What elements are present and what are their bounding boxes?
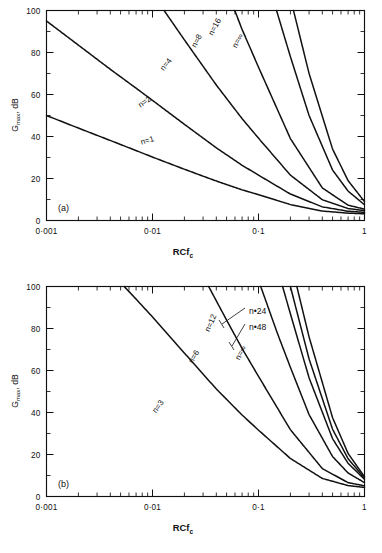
y-tick-label: 40 [31, 133, 41, 142]
chart-svg-a: 0·0010·010·11 020406080100 n=1n=2n=4n=8n… [0, 0, 382, 272]
curve-label-b-3: n=∞ [233, 344, 248, 362]
curve-group-b [124, 287, 364, 488]
curve-n-12 [261, 287, 365, 483]
panel-label-a: (a) [58, 203, 69, 213]
callout-tick-0 [219, 320, 224, 328]
x-tick-label: 0·01 [144, 503, 161, 512]
callout-label-0: n•24 [249, 306, 267, 316]
callout-leader-0 [222, 308, 245, 324]
y-axis-title-a: Gmax, dB [10, 98, 21, 132]
chart-panel-b: 0·0010·010·11 020406080100 n=3n=6n=12n=∞… [0, 276, 382, 548]
y-axis-ticks-a [47, 11, 365, 221]
x-tick-label: 1 [362, 503, 367, 512]
x-tick-label: 0·001 [36, 227, 58, 236]
curve-n-inf [294, 11, 365, 202]
x-axis-ticks-a [47, 11, 365, 221]
y-tick-label: 20 [31, 451, 41, 460]
y-axis-tick-labels-a: 020406080100 [26, 7, 41, 226]
y-tick-label: 40 [31, 409, 41, 418]
y-tick-label: 0 [36, 493, 41, 502]
curve-n-3 [124, 287, 364, 488]
curve-label-b-2: n=12 [203, 312, 219, 333]
y-tick-label: 60 [31, 91, 41, 100]
plot-frame-a [47, 11, 365, 221]
svg-text:RCfc: RCfc [173, 522, 194, 535]
y-tick-label: 60 [31, 367, 41, 376]
x-tick-label: 0·01 [144, 227, 161, 236]
curve-label-a-4: n=16 [207, 16, 224, 37]
curve-label-b-1: n=6 [186, 348, 201, 365]
x-tick-label: 0·001 [36, 503, 58, 512]
x-axis-title-b: RCfc [173, 522, 194, 535]
y-axis-ticks-b [47, 287, 365, 497]
curve-n-1 [47, 116, 365, 214]
y-axis-tick-labels-b: 020406080100 [26, 283, 41, 502]
x-tick-label: 0·1 [252, 227, 265, 236]
y-tick-label: 80 [31, 325, 41, 334]
curve-label-b-0: n=3 [150, 398, 166, 415]
curve-n-16 [277, 11, 365, 205]
curve-n-2 [47, 21, 365, 212]
svg-text:Gmax, dB: Gmax, dB [10, 98, 21, 132]
y-axis-title-b: Gmax, dB [10, 374, 21, 408]
curve-n-8 [235, 11, 365, 210]
x-axis-tick-labels-a: 0·0010·010·11 [36, 227, 368, 236]
curve-label-a-1: n=2 [136, 94, 153, 109]
chart-svg-b: 0·0010·010·11 020406080100 n=3n=6n=12n=∞… [0, 276, 382, 553]
panel-label-b: (b) [58, 479, 69, 489]
chart-panel-a: 0·0010·010·11 020406080100 n=1n=2n=4n=8n… [0, 0, 382, 272]
y-tick-label: 80 [31, 49, 41, 58]
curve-label-a-5: n=∞ [230, 32, 245, 50]
callout-label-1: n•48 [249, 322, 267, 332]
curve-label-a-2: n=4 [158, 56, 174, 73]
x-tick-label: 1 [362, 227, 367, 236]
y-tick-label: 100 [26, 283, 41, 292]
curve-label-a-0: n=1 [140, 134, 156, 147]
y-tick-label: 100 [26, 7, 41, 16]
curve-labels-a: n=1n=2n=4n=8n=16n=∞ [136, 16, 245, 147]
curve-n-24 [283, 287, 365, 480]
curve-n-48 [290, 287, 364, 479]
curve-group-a [47, 11, 365, 214]
y-tick-label: 0 [36, 217, 41, 226]
x-axis-title-a: RCfc [173, 246, 194, 259]
figure-container: 0·0010·010·11 020406080100 n=1n=2n=4n=8n… [0, 0, 382, 553]
curve-label-a-3: n=8 [190, 32, 205, 49]
x-axis-tick-labels-b: 0·0010·010·11 [36, 503, 368, 512]
svg-text:RCfc: RCfc [173, 246, 194, 259]
x-axis-ticks-b [47, 287, 365, 497]
curve-n-inf [297, 287, 365, 477]
svg-text:Gmax, dB: Gmax, dB [10, 374, 21, 408]
callout-group-b: n•24n•48 [219, 306, 267, 350]
curve-labels-b: n=3n=6n=12n=∞ [150, 312, 248, 414]
y-tick-label: 20 [31, 175, 41, 184]
x-tick-label: 0·1 [252, 503, 265, 512]
plot-frame-b [47, 287, 365, 497]
